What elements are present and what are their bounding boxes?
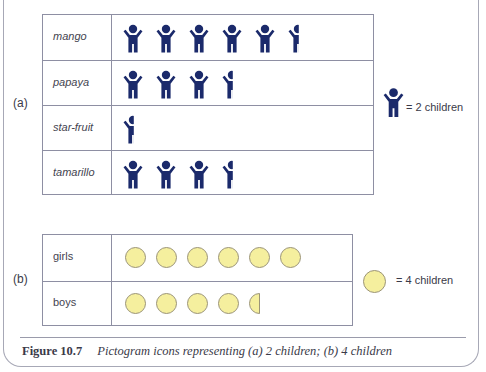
row-label: papaya — [53, 76, 89, 88]
child-figure-icon — [154, 69, 178, 99]
part-b-label: (b) — [13, 272, 28, 286]
icon-group — [125, 247, 301, 268]
child-figure-icon — [154, 159, 178, 189]
table-row: mango — [43, 15, 373, 60]
half-child-figure-icon — [286, 23, 310, 53]
row-label: star-fruit — [53, 121, 93, 133]
legend-a-text: = 2 children — [406, 101, 463, 113]
row-label: mango — [53, 30, 87, 42]
circle-icon — [363, 270, 386, 293]
child-figure-icon — [121, 69, 145, 99]
half-child-figure-icon — [220, 159, 244, 189]
child-figure-icon — [220, 23, 244, 53]
circle-icon — [156, 293, 177, 314]
legend-b-text: = 4 children — [396, 274, 453, 286]
pictogram-table-a: mangopapayastar-fruittamarillo — [42, 14, 374, 195]
icon-group — [125, 293, 260, 314]
icon-group — [121, 69, 244, 99]
circle-icon — [280, 247, 301, 268]
row-label: boys — [53, 296, 76, 308]
child-figure-icon — [187, 69, 211, 99]
child-figure-icon — [187, 159, 211, 189]
pictogram-table-b: girlsboys — [42, 234, 353, 326]
table-row: star-fruit — [43, 105, 373, 150]
table-row: girls — [43, 235, 352, 281]
row-label: tamarillo — [53, 166, 95, 178]
circle-icon — [125, 247, 146, 268]
child-figure-icon — [121, 23, 145, 53]
child-figure-icon — [187, 23, 211, 53]
figure-number: Figure 10.7 — [22, 344, 82, 358]
table-row: boys — [43, 281, 352, 327]
figure-caption: Figure 10.7 Pictogram icons representing… — [22, 344, 392, 359]
child-figure-icon — [381, 86, 406, 118]
caption-divider — [20, 337, 466, 338]
circle-icon — [187, 247, 208, 268]
icon-group — [121, 114, 145, 144]
row-label: girls — [53, 250, 73, 262]
circle-icon — [218, 247, 239, 268]
half-child-figure-icon — [121, 114, 145, 144]
part-a-label: (a) — [13, 96, 28, 110]
half-circle-icon — [249, 293, 260, 314]
icon-group — [121, 159, 244, 189]
child-figure-icon — [154, 23, 178, 53]
circle-icon — [156, 247, 177, 268]
child-figure-icon — [121, 159, 145, 189]
icon-group — [121, 23, 310, 53]
circle-icon — [187, 293, 208, 314]
table-row: papaya — [43, 60, 373, 105]
circle-icon — [249, 247, 270, 268]
child-figure-icon — [253, 23, 277, 53]
half-child-figure-icon — [220, 69, 244, 99]
figure-description: Pictogram icons representing (a) 2 child… — [97, 344, 392, 358]
circle-icon — [218, 293, 239, 314]
table-row: tamarillo — [43, 150, 373, 195]
circle-icon — [125, 293, 146, 314]
